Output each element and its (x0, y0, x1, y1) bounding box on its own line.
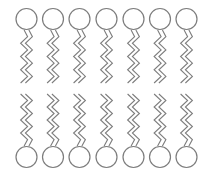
hydrophilic-head (96, 147, 117, 168)
hydrophobic-tail (181, 94, 188, 146)
hydrophilic-head (150, 9, 171, 30)
lipid-molecule (43, 9, 64, 84)
lipid-molecule (123, 9, 144, 84)
hydrophobic-tail (74, 30, 81, 83)
hydrophobic-tail (154, 30, 161, 83)
hydrophilic-head (69, 9, 90, 30)
bilayer-svg (0, 0, 211, 175)
hydrophilic-head (123, 9, 144, 30)
hydrophobic-tail (101, 94, 108, 146)
hydrophilic-head (123, 147, 144, 168)
hydrophilic-head (96, 9, 117, 30)
hydrophobic-tail (47, 30, 54, 83)
lipid-molecule (69, 94, 90, 168)
hydrophilic-head (16, 147, 37, 168)
hydrophobic-tail (128, 94, 135, 146)
hydrophilic-head (69, 147, 90, 168)
lipid-molecule (150, 9, 171, 84)
lipid-bilayer-diagram (0, 0, 211, 175)
hydrophobic-tail (154, 94, 161, 146)
lipid-molecule (176, 9, 197, 84)
hydrophilic-head (43, 147, 64, 168)
lipid-molecule (69, 9, 90, 84)
hydrophobic-tail (21, 30, 28, 83)
lipid-molecule (96, 94, 117, 168)
lipid-molecule (123, 94, 144, 168)
outer-leaflet (16, 9, 197, 84)
lipid-molecule (150, 94, 171, 168)
inner-leaflet (16, 94, 197, 168)
hydrophilic-head (176, 147, 197, 168)
hydrophilic-head (16, 9, 37, 30)
hydrophobic-tail (21, 94, 28, 146)
hydrophobic-tail (101, 30, 108, 83)
lipid-molecule (43, 94, 64, 168)
hydrophobic-tail (181, 30, 188, 83)
lipid-molecule (96, 9, 117, 84)
hydrophilic-head (176, 9, 197, 30)
hydrophobic-tail (47, 94, 54, 146)
hydrophobic-tail (74, 94, 81, 146)
hydrophilic-head (43, 9, 64, 30)
lipid-molecule (16, 9, 37, 84)
lipid-molecule (16, 94, 37, 168)
hydrophilic-head (150, 147, 171, 168)
lipid-molecule (176, 94, 197, 168)
hydrophobic-tail (128, 30, 135, 83)
